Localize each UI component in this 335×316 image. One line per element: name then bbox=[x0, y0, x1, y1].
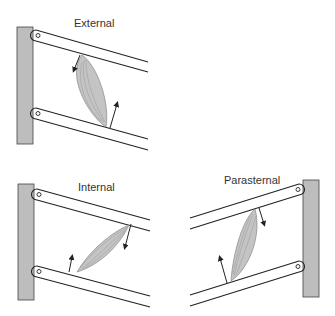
lower-rib bbox=[190, 261, 305, 306]
force-arrow-icon bbox=[69, 257, 72, 272]
panel-internal bbox=[18, 184, 150, 307]
muscle bbox=[76, 55, 106, 127]
joint-icon bbox=[36, 34, 40, 38]
panel-parasternal bbox=[190, 180, 319, 306]
joint-icon bbox=[296, 265, 300, 269]
joint-icon bbox=[37, 193, 41, 197]
joint-icon bbox=[296, 188, 300, 192]
panel-external bbox=[17, 27, 148, 150]
spine-bar bbox=[18, 184, 34, 300]
joint-icon bbox=[37, 270, 41, 274]
lower-rib bbox=[31, 108, 149, 150]
intercostal-diagram bbox=[0, 0, 335, 316]
joint-icon bbox=[36, 112, 40, 116]
force-arrow-icon bbox=[220, 258, 227, 283]
force-arrow-icon bbox=[110, 104, 117, 128]
lower-rib bbox=[32, 266, 151, 307]
force-arrow-icon bbox=[259, 208, 264, 224]
upper-rib bbox=[32, 189, 151, 231]
muscle bbox=[77, 225, 129, 272]
sternum-bar bbox=[303, 180, 319, 297]
muscle bbox=[231, 209, 257, 281]
spine-bar bbox=[17, 27, 33, 144]
